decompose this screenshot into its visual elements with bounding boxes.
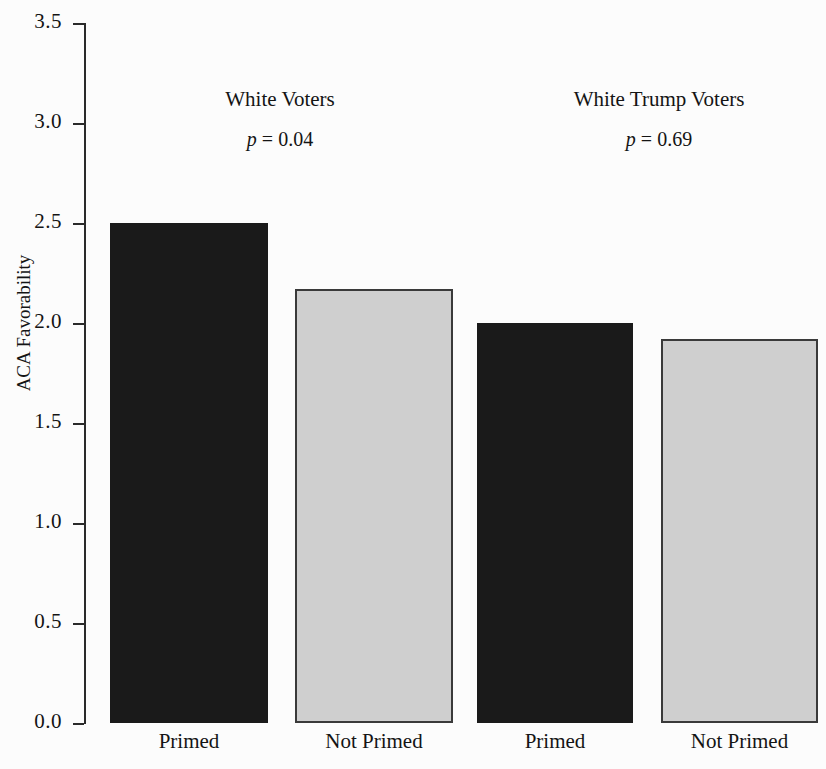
- x-label-white-voters-not-primed: Not Primed: [295, 729, 453, 754]
- y-tick-3.0: [73, 123, 84, 125]
- y-tick-label-1.0: 1.0: [0, 509, 62, 534]
- bar-chart-figure: 3.5 3.0 2.5 2.0 1.5 1.0 0.5 0.0 ACA Favo…: [0, 0, 826, 769]
- y-tick-label-0.0: 0.0: [0, 709, 62, 734]
- p-value-text: = 0.04: [257, 128, 313, 150]
- bar-white-voters-primed: [110, 223, 268, 723]
- y-tick-1.0: [73, 523, 84, 525]
- y-axis-line: [84, 23, 86, 724]
- annotation-white-trump-voters-pvalue: p = 0.69: [530, 126, 788, 152]
- p-symbol: p: [626, 128, 636, 150]
- x-label-white-trump-voters-primed: Primed: [477, 729, 633, 754]
- y-tick-2.0: [73, 323, 84, 325]
- y-tick-label-3.5: 3.5: [0, 9, 62, 34]
- bar-white-trump-voters-primed: [477, 323, 633, 723]
- y-tick-1.5: [73, 423, 84, 425]
- p-value-text: = 0.69: [636, 128, 692, 150]
- bar-white-trump-voters-not-primed: [661, 339, 818, 723]
- y-tick-2.5: [73, 223, 84, 225]
- y-tick-0.0: [73, 723, 84, 725]
- annotation-white-voters-pvalue: p = 0.04: [175, 126, 385, 152]
- annotation-white-voters-title: White Voters: [175, 86, 385, 112]
- y-axis-title: ACA Favorability: [13, 213, 35, 433]
- y-tick-0.5: [73, 623, 84, 625]
- x-label-white-trump-voters-not-primed: Not Primed: [661, 729, 818, 754]
- annotation-white-voters: White Voters p = 0.04: [175, 86, 385, 152]
- y-tick-3.5: [73, 23, 84, 25]
- y-tick-label-0.5: 0.5: [0, 609, 62, 634]
- x-label-white-voters-primed: Primed: [110, 729, 268, 754]
- y-tick-label-3.0: 3.0: [0, 109, 62, 134]
- bar-white-voters-not-primed: [295, 289, 453, 723]
- annotation-white-trump-voters-title: White Trump Voters: [530, 86, 788, 112]
- plot-area: 3.5 3.0 2.5 2.0 1.5 1.0 0.5 0.0 ACA Favo…: [0, 0, 826, 769]
- p-symbol: p: [247, 128, 257, 150]
- annotation-white-trump-voters: White Trump Voters p = 0.69: [530, 86, 788, 152]
